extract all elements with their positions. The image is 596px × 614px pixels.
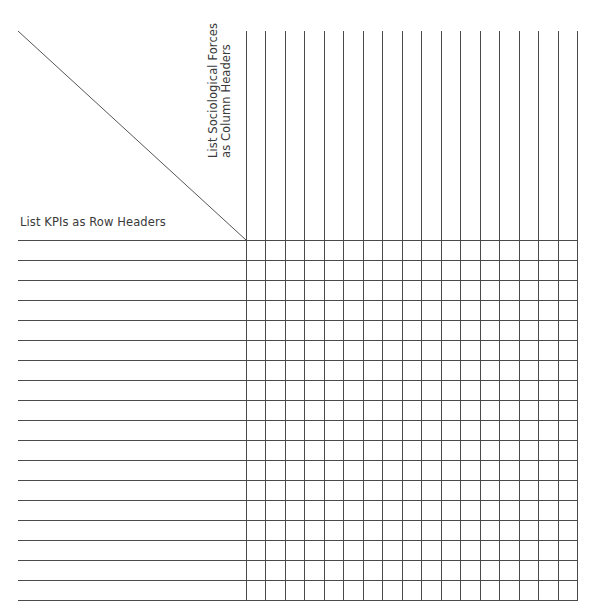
row-header-instruction: List KPIs as Row Headers [20, 215, 166, 229]
column-header-instruction-line1: List Sociological Forces [207, 23, 220, 158]
column-header-instruction-line2: as Column Headers [220, 23, 233, 158]
grid-lines [18, 31, 578, 601]
column-header-instruction: List Sociological Forces as Column Heade… [207, 23, 232, 158]
kpi-sociological-forces-matrix [0, 0, 596, 614]
